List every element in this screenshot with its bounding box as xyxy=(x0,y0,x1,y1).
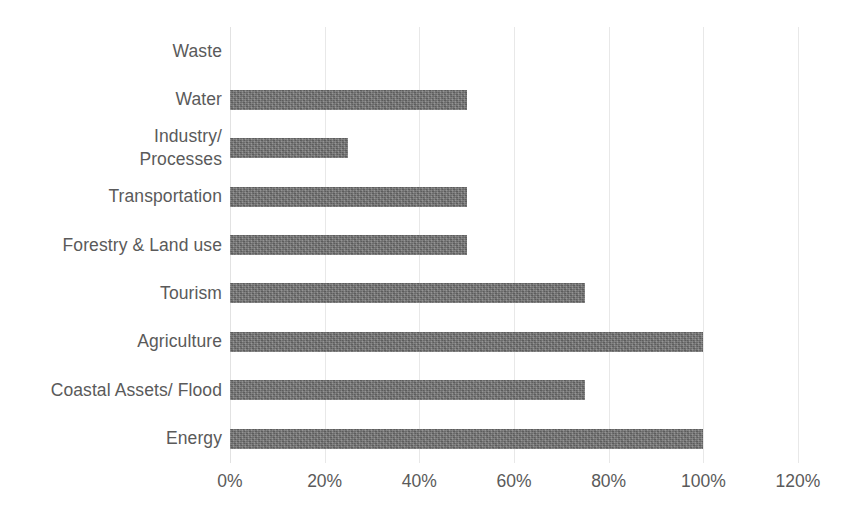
bar[interactable] xyxy=(230,332,703,352)
category-label: Coastal Assets/ Flood xyxy=(0,379,222,402)
bar[interactable] xyxy=(230,380,585,400)
bar[interactable] xyxy=(230,283,585,303)
category-label: Tourism xyxy=(0,282,222,305)
plot-area xyxy=(230,27,798,463)
category-label: Water xyxy=(0,88,222,111)
bar-row xyxy=(230,318,798,366)
bar[interactable] xyxy=(230,90,467,110)
x-tick-label: 60% xyxy=(496,470,531,492)
x-tick-label: 100% xyxy=(681,470,726,492)
bar[interactable] xyxy=(230,429,703,449)
x-axis-tick-labels: 0%20%40%60%80%100%120% xyxy=(230,470,798,500)
bar-row xyxy=(230,415,798,463)
bar-row xyxy=(230,27,798,75)
category-label: Forestry & Land use xyxy=(0,234,222,257)
bar-chart: WasteWaterIndustry/ ProcessesTransportat… xyxy=(0,0,852,523)
category-label: Agriculture xyxy=(0,330,222,353)
bar-row xyxy=(230,269,798,317)
bar-row xyxy=(230,366,798,414)
bar[interactable] xyxy=(230,138,348,158)
bar[interactable] xyxy=(230,187,467,207)
x-tick-label: 80% xyxy=(591,470,626,492)
bar-row xyxy=(230,75,798,123)
bar[interactable] xyxy=(230,235,467,255)
category-label: Waste xyxy=(0,40,222,63)
bar-row xyxy=(230,172,798,220)
category-label: Transportation xyxy=(0,185,222,208)
y-axis-category-labels: WasteWaterIndustry/ ProcessesTransportat… xyxy=(0,27,222,463)
category-label: Industry/ Processes xyxy=(0,125,222,171)
x-tick-label: 40% xyxy=(402,470,437,492)
x-tick-label: 20% xyxy=(307,470,342,492)
bar-row xyxy=(230,221,798,269)
x-tick-label: 0% xyxy=(217,470,242,492)
category-label: Energy xyxy=(0,427,222,450)
x-tick-label: 120% xyxy=(776,470,821,492)
gridline-120 xyxy=(798,27,799,463)
bar-row xyxy=(230,124,798,172)
